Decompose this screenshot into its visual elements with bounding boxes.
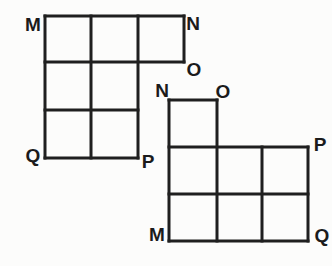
vertex-label-p: P <box>314 134 327 155</box>
vertex-label-n: N <box>155 80 169 101</box>
vertex-label-n: N <box>186 13 200 34</box>
vertex-label-m: M <box>25 14 41 35</box>
figure-right: NOPMQ <box>149 80 329 246</box>
vertex-label-o: O <box>216 81 231 102</box>
vertex-label-q: Q <box>315 225 330 246</box>
diagram-canvas: MNOQPNOPMQ <box>0 0 332 266</box>
diagram-page: MNOQPNOPMQ <box>0 0 332 266</box>
vertex-label-m: M <box>149 224 165 245</box>
vertex-label-o: O <box>187 59 202 80</box>
vertex-label-p: P <box>142 151 155 172</box>
vertex-label-q: Q <box>26 145 41 166</box>
